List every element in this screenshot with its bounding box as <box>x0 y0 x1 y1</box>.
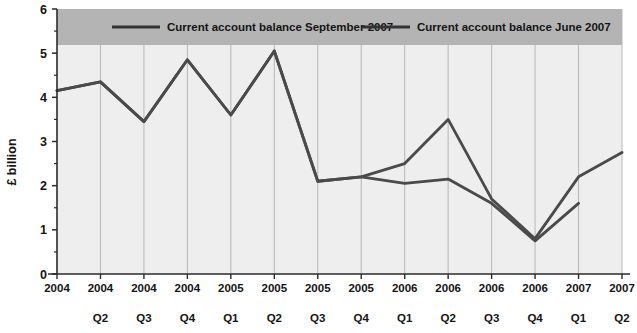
x-tick-label-year: 2005 <box>262 282 288 294</box>
y-tick-label: 6 <box>40 3 47 17</box>
x-tick-label-year: 2005 <box>218 282 244 294</box>
y-tick-label: 1 <box>40 223 47 237</box>
x-axis-group: 20042004Q22004Q32004Q42005Q12005Q22005Q3… <box>44 274 635 324</box>
legend-label-june-2007: Current account balance June 2007 <box>417 21 611 33</box>
x-tick-label-quarter: Q4 <box>354 312 370 324</box>
x-tick-label-quarter: Q4 <box>180 312 196 324</box>
x-tick-label-year: 2004 <box>88 282 114 294</box>
x-tick-label-quarter: Q2 <box>267 312 282 324</box>
x-tick-label-quarter: Q1 <box>223 312 239 324</box>
chart-svg: Current account balance September 2007 C… <box>0 0 637 333</box>
x-tick-label-year: 2004 <box>44 282 70 294</box>
x-tick-label-quarter: Q2 <box>93 312 108 324</box>
x-tick-label-quarter: Q2 <box>440 312 455 324</box>
y-tick-label: 5 <box>40 47 47 61</box>
x-tick-label-quarter: Q3 <box>136 312 151 324</box>
y-tick-label: 0 <box>40 268 47 282</box>
x-tick-label-quarter: Q3 <box>484 312 499 324</box>
x-tick-label-year: 2005 <box>305 282 331 294</box>
x-tick-label-year: 2007 <box>566 282 592 294</box>
x-tick-label-year: 2005 <box>348 282 374 294</box>
x-tick-label-year: 2006 <box>479 282 505 294</box>
x-tick-label-quarter: Q3 <box>310 312 325 324</box>
y-tick-label: 2 <box>40 179 47 193</box>
x-tick-label-quarter: Q1 <box>397 312 413 324</box>
y-tick-label: 3 <box>40 135 47 149</box>
y-axis-group: 0123456 <box>40 3 57 282</box>
legend-label-september-2007: Current account balance September 2007 <box>167 21 393 33</box>
x-tick-label-quarter: Q4 <box>527 312 543 324</box>
current-account-balance-chart: Current account balance September 2007 C… <box>0 0 637 333</box>
x-tick-label-year: 2006 <box>435 282 461 294</box>
y-tick-label: 4 <box>40 91 47 105</box>
x-tick-label-year: 2004 <box>131 282 157 294</box>
y-axis-title: £ billion <box>5 138 19 185</box>
x-tick-label-year: 2006 <box>392 282 418 294</box>
x-tick-label-quarter: Q2 <box>614 312 629 324</box>
x-tick-label-year: 2006 <box>522 282 548 294</box>
x-tick-label-year: 2004 <box>175 282 201 294</box>
x-tick-label-year: 2007 <box>609 282 635 294</box>
x-tick-label-quarter: Q1 <box>571 312 587 324</box>
